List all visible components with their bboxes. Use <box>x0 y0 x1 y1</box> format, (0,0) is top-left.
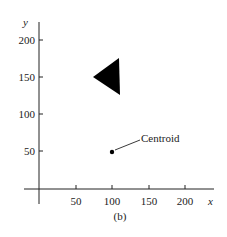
y-tick-200: 200 <box>19 34 36 46</box>
x-tick-200: 200 <box>177 195 194 207</box>
y-ticks <box>39 40 43 151</box>
triangle-shape <box>93 58 120 95</box>
x-tick-100: 100 <box>104 195 121 207</box>
centroid-diagram: 50 100 150 200 x 200 150 100 50 y Centro… <box>0 0 227 237</box>
y-tick-50: 50 <box>24 145 36 157</box>
x-ticks <box>76 185 185 189</box>
centroid-leader-line <box>115 140 140 150</box>
x-tick-150: 150 <box>141 195 158 207</box>
x-tick-50: 50 <box>71 195 83 207</box>
y-tick-150: 150 <box>19 71 36 83</box>
x-axis-label: x <box>207 195 213 207</box>
figure-caption: (b) <box>114 210 127 223</box>
centroid-point <box>110 150 114 154</box>
y-tick-100: 100 <box>19 108 36 120</box>
centroid-label: Centroid <box>141 132 180 144</box>
y-axis-label: y <box>22 16 28 28</box>
